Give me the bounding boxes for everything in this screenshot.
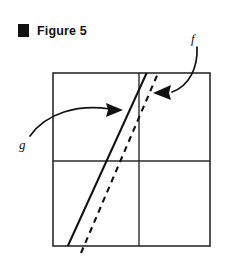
curve-g-label: g bbox=[19, 137, 26, 152]
diagram-frame bbox=[53, 73, 210, 246]
figure-page: Figure 5 g bbox=[0, 0, 234, 265]
curve-f-label: f bbox=[191, 31, 197, 46]
diagram-canvas: g f bbox=[0, 0, 234, 265]
figure-diagram: g f bbox=[0, 0, 234, 265]
